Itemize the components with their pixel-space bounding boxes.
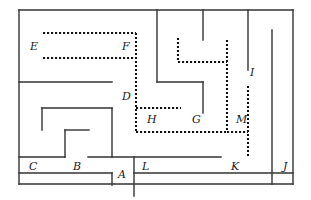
room-label-c: C (29, 160, 38, 173)
room-label-d: D (121, 90, 131, 103)
figure-background (0, 0, 311, 200)
room-label-i: I (249, 66, 255, 79)
room-label-a: A (117, 168, 126, 181)
room-label-j: J (281, 160, 288, 173)
room-label-h: H (146, 113, 157, 126)
room-label-k: K (230, 160, 240, 173)
room-label-g: G (192, 113, 201, 126)
maze-diagram-figure: EFDHGIMCBALKJ (0, 0, 311, 200)
room-label-e: E (29, 40, 38, 53)
room-label-b: B (72, 160, 81, 173)
maze-svg-canvas: EFDHGIMCBALKJ (0, 0, 311, 200)
room-label-l: L (141, 160, 149, 173)
room-label-f: F (121, 40, 130, 53)
room-label-m: M (235, 113, 248, 126)
